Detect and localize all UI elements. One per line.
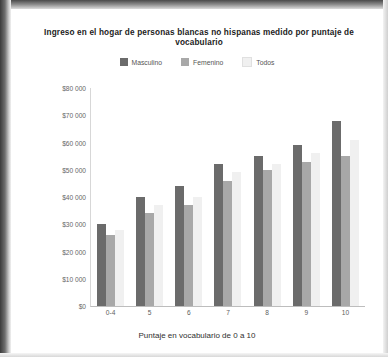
bar-group bbox=[175, 88, 202, 306]
y-tick-label: $10 000 bbox=[62, 275, 86, 282]
y-axis-tick-labels: $0$10 000$20 000$30 000$40 000$50 000$60… bbox=[41, 88, 86, 307]
bar-femenino[interactable] bbox=[302, 162, 311, 306]
x-tick-label: 9 bbox=[291, 309, 321, 323]
bar-masculino[interactable] bbox=[175, 186, 184, 306]
bar-group bbox=[332, 88, 359, 306]
y-tick-label: $50 000 bbox=[62, 166, 86, 173]
bar-group bbox=[136, 88, 163, 306]
x-axis-tick-labels: 0-45678910 bbox=[91, 309, 365, 323]
bar-group bbox=[214, 88, 241, 306]
y-tick-label: $30 000 bbox=[62, 221, 86, 228]
chart-sheet: Ingreso en el hogar de personas blancas … bbox=[11, 9, 383, 353]
y-tick-label: $80 000 bbox=[62, 85, 86, 92]
x-tick-label: 7 bbox=[213, 309, 243, 323]
y-tick-label: $40 000 bbox=[62, 194, 86, 201]
bar-todos[interactable] bbox=[115, 230, 124, 306]
legend-label: Masculino bbox=[132, 59, 163, 66]
bar-femenino[interactable] bbox=[145, 213, 154, 306]
chart-legend: MasculinoFemeninoTodos bbox=[11, 57, 383, 67]
bar-femenino[interactable] bbox=[341, 156, 350, 306]
legend-item-masculino[interactable]: Masculino bbox=[120, 58, 163, 66]
bar-group bbox=[293, 88, 320, 306]
bar-todos[interactable] bbox=[232, 172, 241, 306]
bar-femenino[interactable] bbox=[184, 205, 193, 306]
x-tick-label: 8 bbox=[252, 309, 282, 323]
y-tick-label: $20 000 bbox=[62, 248, 86, 255]
y-tick-label: $0 bbox=[79, 303, 86, 310]
legend-swatch-icon bbox=[242, 57, 252, 67]
y-tick-label: $60 000 bbox=[62, 139, 86, 146]
legend-swatch-icon bbox=[120, 58, 128, 66]
bar-group bbox=[97, 88, 124, 306]
plot-area bbox=[91, 88, 365, 306]
bar-femenino[interactable] bbox=[263, 170, 272, 306]
x-tick-label: 5 bbox=[135, 309, 165, 323]
x-tick-label: 0-4 bbox=[96, 309, 126, 323]
legend-item-todos[interactable]: Todos bbox=[242, 57, 274, 67]
screenshot-root: Ingreso en el hogar de personas blancas … bbox=[0, 0, 388, 357]
scan-edge-left bbox=[0, 0, 11, 357]
bar-masculino[interactable] bbox=[293, 145, 302, 306]
scan-edge-right bbox=[383, 0, 388, 357]
x-axis-title: Puntaje en vocabulario de 0 a 10 bbox=[11, 331, 383, 340]
legend-label: Todos bbox=[256, 59, 274, 66]
bar-todos[interactable] bbox=[154, 205, 163, 306]
bar-todos[interactable] bbox=[311, 153, 320, 306]
bar-femenino[interactable] bbox=[223, 181, 232, 306]
scan-edge-bottom bbox=[0, 353, 388, 357]
legend-swatch-icon bbox=[181, 58, 189, 66]
bar-todos[interactable] bbox=[350, 140, 359, 306]
x-tick-label: 10 bbox=[330, 309, 360, 323]
bar-masculino[interactable] bbox=[254, 156, 263, 306]
legend-item-femenino[interactable]: Femenino bbox=[181, 58, 223, 66]
bar-groups bbox=[91, 88, 365, 306]
bar-femenino[interactable] bbox=[106, 235, 115, 306]
x-tick-label: 6 bbox=[174, 309, 204, 323]
legend-label: Femenino bbox=[193, 59, 223, 66]
bar-todos[interactable] bbox=[272, 164, 281, 306]
bar-masculino[interactable] bbox=[214, 164, 223, 306]
scan-edge-top bbox=[0, 0, 388, 9]
bar-masculino[interactable] bbox=[136, 197, 145, 306]
y-tick-label: $70 000 bbox=[62, 112, 86, 119]
bar-todos[interactable] bbox=[193, 197, 202, 306]
bar-masculino[interactable] bbox=[332, 121, 341, 306]
bar-masculino[interactable] bbox=[97, 224, 106, 306]
bar-group bbox=[254, 88, 281, 306]
chart-title: Ingreso en el hogar de personas blancas … bbox=[25, 28, 373, 48]
